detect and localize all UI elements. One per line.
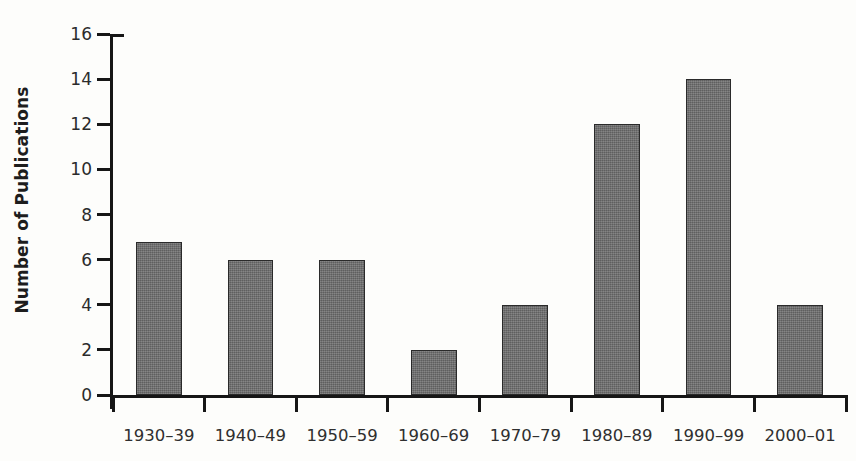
- bar: [502, 305, 548, 395]
- bar: [594, 124, 640, 395]
- x-axis-tick-label: 1950–59: [306, 426, 377, 445]
- x-axis-tick-label: 1980–89: [581, 426, 652, 445]
- x-axis-tick: [570, 395, 573, 412]
- y-axis-tick-label: 2: [81, 339, 92, 359]
- x-axis-tick-label: 1940–49: [215, 426, 286, 445]
- x-axis-tick-label: 1960–69: [398, 426, 469, 445]
- x-axis-tick-label: 1930–39: [123, 426, 194, 445]
- y-axis-tick-label: 6: [81, 249, 92, 269]
- bars-layer: [113, 34, 846, 395]
- y-axis-tick: [97, 213, 110, 216]
- y-axis-tick-label: 0: [81, 385, 92, 405]
- y-axis-title-label: Number of Publications: [12, 86, 32, 313]
- y-axis-tick: [97, 168, 110, 171]
- y-axis-tick: [97, 33, 110, 36]
- y-axis-tick: [97, 394, 110, 397]
- bar: [411, 350, 457, 395]
- bar: [777, 305, 823, 395]
- x-axis-tick-label: 1970–79: [490, 426, 561, 445]
- y-axis-tick-label: 16: [70, 24, 92, 44]
- x-axis-tick: [112, 395, 115, 412]
- y-axis-title: Number of Publications: [0, 0, 44, 400]
- y-axis-tick-label: 8: [81, 204, 92, 224]
- y-axis-tick: [97, 258, 110, 261]
- x-axis-tick: [386, 395, 389, 412]
- y-axis-tick-label: 10: [70, 159, 92, 179]
- y-axis-tick-label: 12: [70, 114, 92, 134]
- x-axis-tick: [753, 395, 756, 412]
- y-axis-tick: [97, 348, 110, 351]
- y-axis-tick: [97, 303, 110, 306]
- y-axis-tick: [97, 78, 110, 81]
- publications-bar-chart: Number of Publications 0246810121416 193…: [0, 0, 856, 461]
- bar: [228, 260, 274, 395]
- x-axis-tick-label: 2000–01: [765, 426, 836, 445]
- y-axis-tick-label: 14: [70, 69, 92, 89]
- bar: [686, 79, 732, 395]
- x-axis-tick: [661, 395, 664, 412]
- x-axis-tick: [845, 395, 848, 412]
- x-axis-tick-label: 1990–99: [673, 426, 744, 445]
- x-axis-tick: [203, 395, 206, 412]
- y-axis-tick-label: 4: [81, 294, 92, 314]
- bar: [319, 260, 365, 395]
- x-axis-tick: [478, 395, 481, 412]
- x-axis-tick: [295, 395, 298, 412]
- plot-area: 0246810121416 1930–391940–491950–591960–…: [113, 34, 846, 395]
- bar: [136, 242, 182, 395]
- y-axis-tick: [97, 123, 110, 126]
